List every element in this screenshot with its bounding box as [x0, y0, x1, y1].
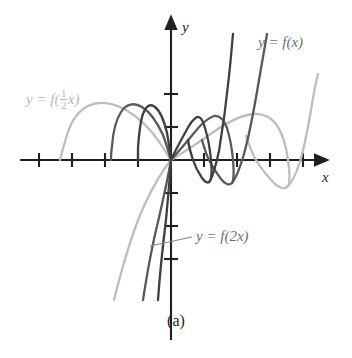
graph-canvas — [0, 0, 352, 358]
annotation-f-half-x-suffix: x) — [68, 91, 80, 107]
figure-container: y = f(12x) y = f(x) y = f(2x) y x (a) — [0, 0, 352, 358]
annotation-f-2x: y = f(2x) — [196, 229, 249, 244]
fraction-denominator: 2 — [60, 100, 67, 111]
curve-f-half-x — [60, 103, 171, 300]
curve-f-half-x-tail — [288, 74, 318, 186]
annotation-f-half-x-prefix: y = f( — [26, 91, 59, 107]
curve-f-x — [111, 104, 171, 300]
figure-caption: (a) — [0, 312, 352, 330]
annotation-f-half-x: y = f(12x) — [26, 88, 80, 111]
axes-group — [20, 28, 316, 340]
annotation-f-x: y = f(x) — [258, 35, 303, 50]
y-axis-label: y — [182, 20, 189, 35]
x-axis-label: x — [322, 170, 329, 185]
fraction-one-half: 12 — [60, 88, 67, 111]
